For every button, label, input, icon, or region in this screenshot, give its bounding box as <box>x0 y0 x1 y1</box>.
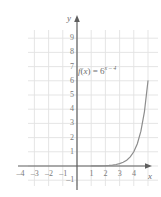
y-tick-label-3: 3 <box>70 119 74 127</box>
y-tick-label--1: –1 <box>66 176 74 184</box>
y-tick-label-9: 9 <box>70 34 74 42</box>
y-tick-label-4: 4 <box>70 105 74 113</box>
exponential-function-graph <box>0 0 161 197</box>
x-tick-label-1: 1 <box>89 170 93 178</box>
y-axis-name: y <box>67 13 71 23</box>
x-tick-label--3: –3 <box>31 170 39 178</box>
x-tick-label-3: 3 <box>118 170 122 178</box>
x-tick-label-2: 2 <box>104 170 108 178</box>
function-equation-label: f(x) = 6x – 4 <box>78 65 116 76</box>
y-tick-label-8: 8 <box>70 48 74 56</box>
grid-lines <box>28 30 158 186</box>
x-axis-name: x <box>148 171 152 181</box>
x-tick-label-4: 4 <box>132 170 136 178</box>
y-tick-label-1: 1 <box>70 148 74 156</box>
y-tick-label-2: 2 <box>70 134 74 142</box>
axis-lines <box>18 15 152 190</box>
y-tick-label-7: 7 <box>70 63 74 71</box>
y-tick-label-6: 6 <box>70 77 74 85</box>
x-tick-label--2: –2 <box>45 170 53 178</box>
y-tick-label-5: 5 <box>70 91 74 99</box>
x-tick-label--4: –4 <box>17 170 25 178</box>
